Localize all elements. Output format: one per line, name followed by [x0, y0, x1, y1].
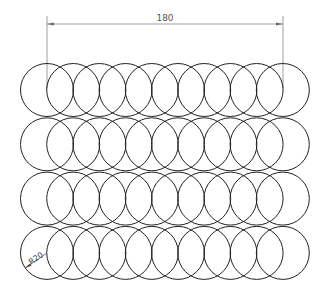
arrow-right-icon	[276, 23, 283, 26]
radius-annotation: R20	[25, 250, 47, 268]
arrow-left-icon	[47, 23, 54, 26]
dimension-label: 180	[156, 13, 173, 23]
technical-drawing: 180 R20	[0, 0, 325, 298]
circle-grid	[21, 64, 310, 280]
radius-label: R20	[27, 250, 45, 266]
dimension-180: 180	[47, 13, 283, 88]
